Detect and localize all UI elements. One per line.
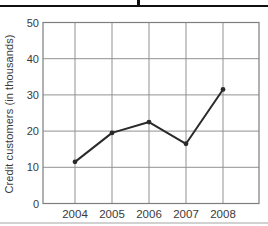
figure-canvas: 0102030405020042005200620072008 Credit c… bbox=[0, 0, 268, 226]
y-axis-title: Credit customers (in thousands) bbox=[3, 35, 15, 194]
y-tick-label: 0 bbox=[33, 198, 39, 210]
data-point-marker bbox=[221, 87, 226, 92]
bottom-faint-rule bbox=[0, 222, 268, 224]
x-tick-label: 2005 bbox=[99, 208, 125, 220]
x-tick-label: 2004 bbox=[62, 208, 88, 220]
x-tick-label: 2007 bbox=[173, 208, 199, 220]
y-tick-label: 10 bbox=[27, 161, 39, 173]
data-point-marker bbox=[184, 141, 189, 146]
data-point-marker bbox=[73, 159, 78, 164]
y-tick-label: 20 bbox=[27, 125, 39, 137]
x-tick-label: 2006 bbox=[136, 208, 162, 220]
x-tick-label: 2008 bbox=[210, 208, 236, 220]
y-tick-label: 30 bbox=[27, 89, 39, 101]
line-chart: 0102030405020042005200620072008 bbox=[0, 0, 268, 226]
data-point-marker bbox=[147, 120, 152, 125]
y-tick-label: 50 bbox=[27, 17, 39, 29]
data-point-marker bbox=[110, 131, 115, 136]
y-tick-label: 40 bbox=[27, 53, 39, 65]
